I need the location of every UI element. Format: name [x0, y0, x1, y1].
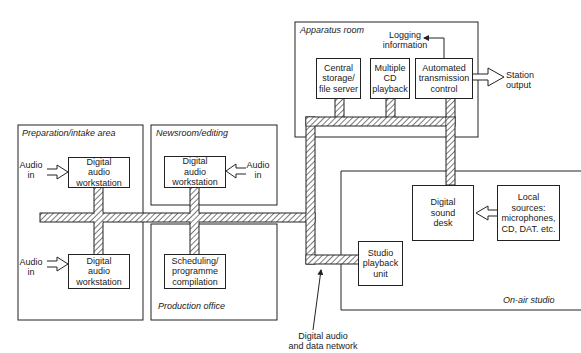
preparation-area-label: Preparation/intake area	[22, 128, 116, 138]
audio-in-arrow-prep-bottom-shape	[47, 257, 68, 271]
audio-in-prep-bottom-label: Audio in	[18, 257, 44, 277]
local-sources-block: Local sources: microphones, CD, DAT. etc…	[497, 185, 560, 241]
apparatus-room-label: Apparatus room	[300, 25, 364, 35]
scheduling-block: Scheduling/ programme compilation	[164, 254, 226, 289]
daw-prep-top-block: Digital audio workstation	[68, 157, 130, 188]
on-air-studio-label: On-air studio	[503, 295, 555, 305]
audio-in-newsroom-label: Audio in	[245, 160, 271, 180]
central-storage-block: Central storage/ file server	[316, 58, 361, 99]
audio-in-arrow-news-shape	[226, 164, 246, 178]
production-office-label: Production office	[158, 301, 225, 311]
local-sources-arrow	[476, 206, 497, 220]
digital-sound-desk-block: Digital sound desk	[412, 185, 474, 241]
studio-playback-unit-block: Studio playback unit	[358, 241, 403, 286]
audio-in-prep-top-label: Audio in	[18, 160, 44, 180]
logging-information-label: Logging information	[370, 30, 440, 50]
newsroom-label: Newsroom/editing	[156, 128, 228, 138]
automated-transmission-control-block: Automated transmission control	[415, 58, 473, 99]
daw-prep-bottom-block: Digital audio workstation	[68, 254, 130, 289]
network-pointer	[313, 270, 321, 330]
daw-newsroom-block: Digital audio workstation	[164, 156, 226, 188]
audio-in-arrow-prep-top-shape	[47, 165, 68, 179]
network-label: Digital audio and data network	[283, 331, 363, 351]
multiple-cd-playback-block: Multiple CD playback	[370, 58, 410, 99]
station-output-label: Station output	[506, 70, 546, 90]
